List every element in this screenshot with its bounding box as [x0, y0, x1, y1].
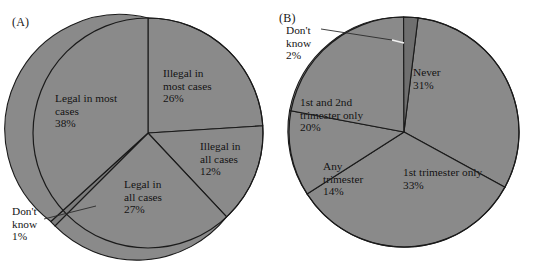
slice-label-line2: cases	[55, 105, 117, 118]
slice-label-line2: know	[286, 37, 311, 50]
pie-chart-a	[5, 14, 263, 260]
slice-label-b-first-trimester-only: 1st trimester only 33%	[403, 166, 482, 191]
slice-label-line1: Don't	[286, 24, 311, 37]
slice-label-a-illegal-all: Illegal in all cases 12%	[200, 140, 240, 178]
slice-label-line1: Any	[323, 160, 363, 173]
pie-chart-figure: (A) (B) Illegal in most cases 26% Illega…	[0, 0, 539, 261]
slice-label-line1: Legal in most	[55, 92, 117, 105]
slice-label-line1: Illegal in	[163, 67, 212, 80]
slice-label-percent: 14%	[323, 185, 363, 198]
slice-label-percent: 1%	[12, 230, 37, 243]
slice-label-percent: 2%	[286, 49, 311, 62]
slice-label-percent: 33%	[403, 179, 482, 192]
slice-label-a-dont-know: Don't know 1%	[12, 205, 37, 243]
slice-label-a-legal-all: Legal in all cases 27%	[124, 178, 162, 216]
slice-label-a-legal-most: Legal in most cases 38%	[55, 92, 117, 130]
slice-label-b-never: Never 31%	[413, 66, 441, 91]
panel-letter-a: (A)	[12, 15, 29, 30]
slice-label-line2: all cases	[200, 153, 240, 166]
slice-label-percent: 12%	[200, 165, 240, 178]
slice-label-a-illegal-most: Illegal in most cases 26%	[163, 67, 212, 105]
slice-label-line1: Illegal in	[200, 140, 240, 153]
pie-charts-svg	[0, 0, 539, 261]
slice-label-line2: trimester only	[300, 109, 363, 122]
slice-label-line2: trimester	[323, 173, 363, 186]
slice-label-line2: know	[12, 218, 37, 231]
slice-label-percent: 26%	[163, 92, 212, 105]
slice-label-b-dont-know: Don't know 2%	[286, 24, 311, 62]
slice-label-line1: Don't	[12, 205, 37, 218]
slice-label-line1: Legal in	[124, 178, 162, 191]
slice-label-line2: all cases	[124, 191, 162, 204]
slice-label-line1: Never	[413, 66, 441, 79]
slice-label-percent: 20%	[300, 121, 363, 134]
slice-label-b-any-trimester: Any trimester 14%	[323, 160, 363, 198]
slice-label-percent: 38%	[55, 117, 117, 130]
slice-label-percent: 31%	[413, 79, 441, 92]
slice-label-b-first-and-second-trimester-only: 1st and 2nd trimester only 20%	[300, 96, 363, 134]
slice-label-line1: 1st and 2nd	[300, 96, 363, 109]
slice-label-line2: most cases	[163, 80, 212, 93]
slice-label-line1: 1st trimester only	[403, 166, 482, 179]
slice-label-percent: 27%	[124, 203, 162, 216]
